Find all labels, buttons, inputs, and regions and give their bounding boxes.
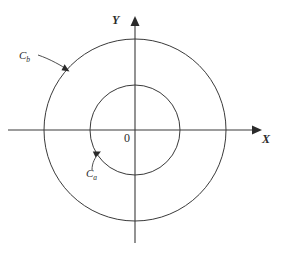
y-axis-label: Y [112, 14, 119, 26]
figure-canvas: Y X 0 Cb Ca [0, 0, 287, 254]
y-axis-arrowhead [131, 16, 140, 26]
x-axis-label: X [262, 133, 270, 145]
inner-circle-label: Ca [86, 168, 97, 182]
outer-circle-label-subscript: b [26, 55, 30, 64]
inner-circle-leader-arrowhead [93, 152, 101, 158]
outer-circle-label: Cb [19, 50, 30, 64]
x-axis-arrowhead [252, 126, 262, 135]
figure-graphic [0, 0, 287, 254]
inner-circle-label-subscript: a [93, 173, 97, 182]
origin-label: 0 [124, 132, 130, 144]
